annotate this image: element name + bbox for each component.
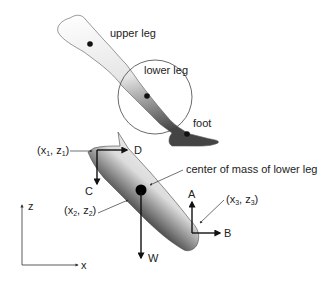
label-axis-z: z [28, 201, 34, 212]
label-foot: foot [193, 118, 211, 129]
upper-leg-center-dot [87, 41, 93, 47]
foot-center-dot [184, 131, 190, 137]
label-upper-leg: upper leg [110, 28, 156, 39]
label-point-2: (x2, z2) [64, 205, 96, 217]
label-force-B: B [224, 228, 231, 239]
label-axis-x: x [81, 260, 87, 271]
label-point-3: (x3, z3) [226, 194, 258, 206]
diagram-graphics [0, 0, 330, 284]
lower-leg-center-dot [144, 93, 150, 99]
leg-free-body-diagram: upper leg lower leg foot (x1, z1) D C ce… [0, 0, 330, 284]
label-force-C: C [85, 186, 93, 197]
label-force-W: W [148, 253, 158, 264]
label-center-of-mass: center of mass of lower leg [186, 164, 317, 175]
label-lower-leg: lower leg [144, 65, 188, 76]
label-force-D: D [134, 145, 142, 156]
label-point-1: (x1, z1) [37, 145, 69, 157]
label-force-A: A [188, 189, 195, 200]
